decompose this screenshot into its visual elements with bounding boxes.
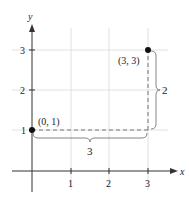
- y-tick-label-3: 3: [20, 45, 25, 56]
- y-axis-label: y: [27, 11, 33, 22]
- point-3-3: [145, 47, 151, 53]
- chart-canvas: x 1 2 3 y 3 2 1 3 2 (0, 1) (3, 3): [0, 0, 189, 200]
- rise-label: 2: [162, 84, 168, 96]
- run-label: 3: [87, 145, 93, 157]
- y-tick-label-2: 2: [20, 85, 25, 96]
- x-axis: [12, 168, 178, 174]
- coordinate-plane-figure: x 1 2 3 y 3 2 1 3 2 (0, 1) (3, 3): [0, 0, 189, 200]
- run-brace: [33, 133, 147, 142]
- x-tick-label-2: 2: [106, 178, 111, 189]
- x-axis-label: x: [179, 166, 185, 177]
- point-3-3-label: (3, 3): [118, 55, 140, 67]
- point-0-1-label: (0, 1): [38, 116, 60, 128]
- point-0-1: [29, 127, 35, 133]
- y-tick-label-1: 1: [21, 125, 26, 136]
- x-tick-label-3: 3: [145, 178, 150, 189]
- x-tick-label-1: 1: [68, 178, 73, 189]
- y-axis: [29, 24, 35, 192]
- x-axis-arrow-icon: [170, 168, 178, 174]
- grid: [12, 28, 168, 190]
- y-axis-arrow-icon: [29, 24, 35, 32]
